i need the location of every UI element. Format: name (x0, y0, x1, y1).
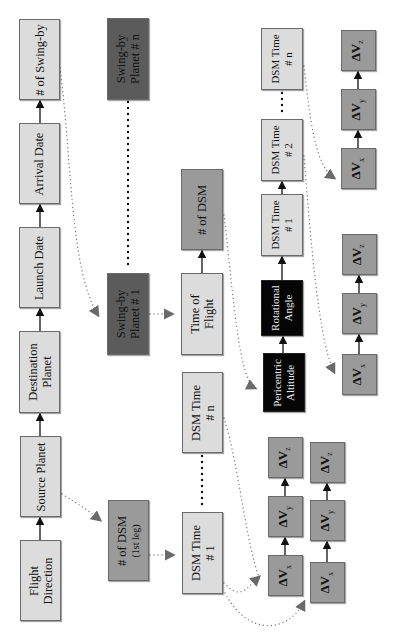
destination-planet-box: DestinationPlanet (19, 331, 60, 413)
num-dsm-label: # of DSM (195, 184, 209, 234)
delta-vz-box: ΔVz (342, 234, 377, 275)
swingby-planet-n-label: Swing-byPlanet # n (114, 34, 142, 84)
arrival-date-label: Arrival Date (33, 132, 47, 195)
first-leg-dsm-time-n-label: DSM Time# n (189, 385, 217, 441)
delta-vx-label: ΔVx (318, 572, 338, 594)
swing-dsm-time-1-label: DSM Time# 1 (269, 200, 295, 249)
destination-planet-label: DestinationPlanet (26, 343, 54, 401)
num-swingby-label: # of Swing-by (33, 24, 47, 96)
swingby-planet-1-label: Swing-byPlanet # 1 (114, 289, 142, 339)
delta-vz-label: ΔVz (349, 40, 369, 61)
source-planet-box: Source Planet (20, 436, 61, 517)
swing-dsm-time-n-box: DSM Time# n (261, 28, 303, 90)
flight-direction-label: FlightDirection (27, 557, 55, 604)
swingby-planet-1-box: Swing-byPlanet # 1 (107, 273, 149, 355)
first-leg-dsm-time-1-label: DSM Time# 1 (189, 525, 217, 581)
delta-vx-label: ΔVx (276, 565, 296, 587)
rotational-angle-label: RotationalAngle (269, 285, 295, 331)
swingby-planet-n-box: Swing-byPlanet # n (107, 18, 149, 100)
delta-vz-box: ΔVz (310, 442, 345, 483)
delta-vy-box: ΔVy (342, 293, 377, 334)
num-swingby-box: # of Swing-by (19, 19, 60, 100)
time-of-flight-box: Time ofFlight (181, 273, 223, 355)
delta-vy-label: ΔVy (349, 99, 369, 121)
num-dsm-box: # of DSM (181, 169, 223, 250)
delta-vx-box: ΔVx (310, 562, 345, 603)
num-dsm-first-leg-label: # of DSM(1st leg) (115, 515, 143, 565)
delta-vy-label: ΔVy (276, 506, 296, 528)
time-of-flight-label: Time ofFlight (188, 294, 216, 333)
delta-vy-label: ΔVy (318, 510, 338, 532)
delta-vz-label: ΔVz (276, 447, 296, 468)
delta-vz-label: ΔVz (350, 244, 370, 265)
source-planet-label: Source Planet (34, 442, 48, 511)
arrival-date-box: Arrival Date (19, 123, 60, 204)
pericentric-altitude-box: PericentricAltitude (263, 353, 305, 412)
delta-vy-box: ΔVy (310, 500, 345, 541)
first-leg-dsm-time-n-box: DSM Time# n (182, 372, 223, 453)
delta-vx-box: ΔVx (342, 354, 377, 395)
num-dsm-first-leg-box: # of DSM(1st leg) (108, 500, 149, 581)
delta-vz-box: ΔVz (268, 437, 303, 478)
swing-dsm-time-2-label: DSM Time# 2 (269, 125, 295, 174)
launch-date-label: Launch Date (33, 235, 47, 299)
delta-vy-box: ΔVy (268, 496, 303, 537)
delta-vx-box: ΔVx (268, 555, 303, 596)
delta-vx-label: ΔVx (350, 364, 370, 386)
swing-dsm-time-2-box: DSM Time# 2 (261, 119, 303, 181)
delta-vx-box: ΔVx (341, 148, 376, 189)
launch-date-box: Launch Date (19, 227, 60, 308)
swing-dsm-time-1-box: DSM Time# 1 (261, 194, 303, 256)
delta-vz-label: ΔVz (318, 452, 338, 473)
swing-dsm-time-n-label: DSM Time# n (269, 34, 295, 83)
delta-vy-box: ΔVy (341, 89, 376, 130)
first-leg-dsm-time-1-box: DSM Time# 1 (182, 512, 223, 594)
delta-vy-label: ΔVy (350, 303, 370, 325)
pericentric-altitude-label: PericentricAltitude (271, 359, 297, 407)
flight-direction-box: FlightDirection (20, 540, 61, 621)
rotational-angle-box: RotationalAngle (261, 280, 303, 336)
delta-vx-label: ΔVx (349, 158, 369, 180)
delta-vz-box: ΔVz (341, 30, 376, 71)
